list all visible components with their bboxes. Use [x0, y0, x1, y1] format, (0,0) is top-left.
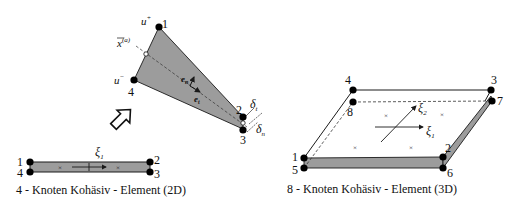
node-3 [487, 86, 494, 93]
xi1-label: ξ1 [95, 145, 104, 161]
mid-point-icon [144, 52, 148, 56]
node-5 [300, 164, 307, 171]
node-label-7: 7 [497, 94, 503, 108]
node-2 [146, 158, 153, 165]
node-label-4: 4 [345, 73, 351, 87]
node-label-4: 4 [17, 166, 23, 180]
node-4 [349, 86, 356, 93]
right-face [443, 96, 492, 168]
edge-1-4 [304, 90, 353, 158]
node-label-5: 5 [292, 163, 298, 177]
node-1 [26, 158, 33, 165]
delta-t-label: δt [250, 97, 259, 113]
node-3 [146, 168, 153, 175]
u-plus-label: u+ [141, 14, 152, 27]
element-3d: × × × × ξ1 ξ2 1 2 3 4 5 6 7 8 8 - Knoten… [287, 73, 503, 196]
gauss-point-icon: × [384, 112, 388, 120]
node-label-3: 3 [491, 73, 497, 87]
cohesive-elements-diagram: × × ξ1 1 2 3 4 4 - Knoten Kohäsiv - Elem… [0, 0, 511, 210]
node-1 [300, 154, 307, 161]
node-label-1: 1 [292, 150, 298, 164]
mid-point-icon [241, 121, 245, 125]
gauss-point-icon: × [116, 164, 120, 172]
node-label-1: 1 [162, 17, 168, 31]
front-face [304, 157, 443, 168]
caption-3d: 8 - Knoten Kohäsiv - Element (3D) [287, 182, 457, 196]
element-2d: × × ξ1 1 2 3 4 4 - Knoten Kohäsiv - Elem… [16, 145, 186, 197]
node-label-8: 8 [347, 105, 353, 119]
gauss-point-icon: × [353, 144, 357, 152]
node-label-4: 4 [128, 85, 134, 99]
caption-2d: 4 - Knoten Kohäsiv - Element (2D) [16, 183, 186, 197]
gauss-point-icon: × [440, 111, 444, 119]
node-label-2: 2 [445, 141, 451, 155]
node-label-6: 6 [447, 166, 453, 180]
gauss-point-icon: × [58, 164, 62, 172]
mid-point-label: x(a) [116, 36, 131, 49]
deformed-element-2d: en et 1 2 3 4 u+ u− x(a) δt δn [114, 14, 266, 147]
node-4 [26, 168, 33, 175]
node-4 [130, 76, 137, 83]
node-7 [488, 97, 495, 104]
open-arrow-icon [107, 103, 137, 133]
node-label-2: 2 [154, 153, 160, 167]
node-label-3: 3 [240, 133, 246, 147]
delta-n-label: δn [256, 122, 266, 138]
deformed-body [134, 27, 243, 129]
gauss-point-icon: × [409, 144, 413, 152]
u-minus-label: u− [114, 73, 125, 86]
node-label-3: 3 [154, 167, 160, 181]
node-label-2: 2 [236, 103, 242, 117]
node-6 [439, 164, 446, 171]
xi1-label: ξ1 [426, 124, 435, 140]
xi2-label: ξ2 [418, 101, 427, 117]
